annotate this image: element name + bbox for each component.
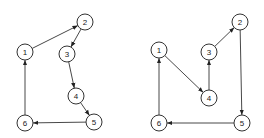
node-label: 3	[65, 50, 70, 59]
edge-2-to-5	[240, 30, 242, 115]
node-6: 6	[17, 115, 33, 131]
node-5: 5	[234, 115, 250, 131]
node-2: 2	[232, 14, 248, 30]
right-graph: 123456	[151, 14, 250, 131]
edge-3-to-2	[215, 28, 235, 47]
node-label: 3	[207, 48, 212, 57]
left-graph: 123456	[17, 14, 102, 131]
edge-1-to-2	[32, 26, 78, 49]
node-5: 5	[86, 114, 102, 130]
node-label: 4	[74, 92, 79, 101]
node-1: 1	[151, 42, 167, 58]
graph-diagrams: 123456 123456	[0, 0, 264, 138]
node-1: 1	[17, 44, 33, 60]
node-label: 5	[240, 119, 245, 128]
node-label: 1	[23, 48, 28, 57]
edge-3-to-4	[69, 62, 75, 88]
node-4: 4	[68, 88, 84, 104]
node-3: 3	[59, 46, 75, 62]
edge-2-to-3	[71, 29, 81, 47]
node-label: 5	[92, 118, 97, 127]
node-label: 6	[23, 119, 28, 128]
node-3: 3	[201, 44, 217, 60]
edge-5-to-6	[33, 122, 86, 123]
node-label: 2	[83, 18, 88, 27]
edge-1-to-4	[165, 56, 203, 93]
node-label: 1	[157, 46, 162, 55]
node-label: 6	[157, 119, 162, 128]
node-6: 6	[151, 115, 167, 131]
edge-4-to-5	[81, 103, 90, 116]
node-label: 4	[207, 94, 212, 103]
node-4: 4	[201, 90, 217, 106]
node-2: 2	[77, 14, 93, 30]
node-label: 2	[238, 18, 243, 27]
